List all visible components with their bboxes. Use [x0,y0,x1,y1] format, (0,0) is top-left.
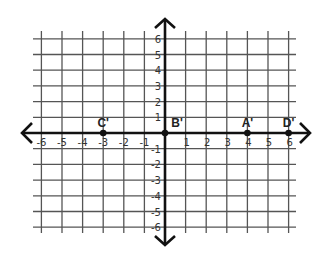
y-tick-label: -1 [151,144,161,155]
point-label: D' [283,116,295,130]
y-tick-label: 3 [155,81,161,92]
y-tick-label: 1 [155,112,161,123]
y-tick-label: 6 [155,34,161,45]
x-tick-label: 3 [225,137,231,148]
y-tick-label: -3 [151,175,161,186]
point-marker [244,130,251,137]
x-tick-label: 1 [183,137,189,148]
y-tick-label: -5 [151,207,161,218]
x-tick-label: -4 [78,137,88,148]
x-tick-label: -3 [98,137,108,148]
x-tick-label: 6 [286,137,292,148]
point-marker [100,130,107,137]
x-tick-label: -1 [139,137,149,148]
point-marker [285,130,292,137]
point-label: C' [97,116,109,130]
y-tick-label: -2 [151,159,161,170]
point-label: B' [171,116,183,130]
x-tick-label: 5 [266,137,272,148]
y-tick-label: 5 [155,50,161,61]
x-tick-label: -6 [36,137,46,148]
point-label: A' [242,116,254,130]
x-tick-label: 2 [204,137,210,148]
x-tick-label: -5 [57,137,67,148]
y-tick-label: 4 [155,65,161,76]
coordinate-plane: -6-5-4-3-2-1123456654321-1-2-3-4-5-6C'B'… [0,0,330,264]
y-tick-label: -6 [151,222,161,233]
x-tick-label: 4 [245,137,251,148]
y-tick-label: 2 [155,97,161,108]
point-marker [162,130,169,137]
y-tick-label: -4 [151,191,161,202]
x-tick-label: -2 [119,137,129,148]
